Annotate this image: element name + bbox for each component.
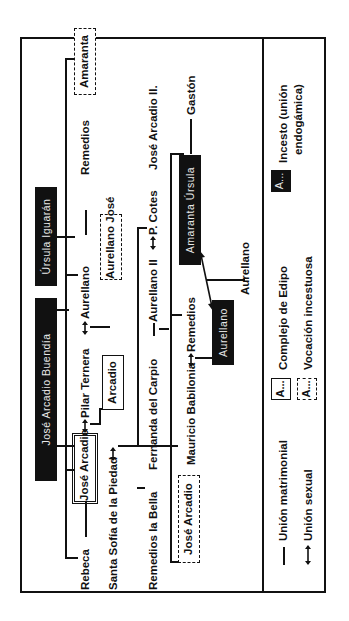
node-jose-arcadio-buendia: José Arcadio Buendía <box>35 298 57 481</box>
legend-vocation-box-icon: A... <box>297 378 317 400</box>
line-to-aureliano-box <box>195 357 212 359</box>
node-ursula-iguaran: Úrsula Iguarán <box>35 187 57 286</box>
incest-union-arrow <box>198 251 216 311</box>
node-amaranta: Amaranta <box>74 28 96 95</box>
node-p-cotes: P. Cotes <box>146 190 160 235</box>
legend-incest-label-line1: Incesto (unión <box>276 84 290 163</box>
node-gaston: Gastón <box>184 75 198 115</box>
node-mauricio-babilonia: Mauricio Babilonia <box>184 363 198 465</box>
node-amaranta-ursula: Amaranta Úrsula <box>179 155 201 265</box>
line-aureliano-remedios <box>85 210 87 235</box>
node-jose-arcadio-ii: José Arcadio II. <box>146 85 160 170</box>
node-aureliano-child: Aurellano <box>238 242 252 295</box>
legend-marriage-label: Unión matrimonial <box>276 440 290 541</box>
line-gen4-bus <box>170 153 172 563</box>
node-pilar-ternera: Pilar Ternera <box>78 349 92 418</box>
legend-sexual-label: Unión sexual <box>301 469 315 541</box>
line-rebeca-marriage <box>85 502 87 537</box>
line-to-arcadio <box>99 410 101 425</box>
node-aureliano-gen1: Aurellano <box>78 266 92 319</box>
legend-incest-box-icon: A... <box>271 170 291 192</box>
sexual-union-arrow <box>186 353 196 367</box>
node-remedios-gen1: Remedios <box>78 120 92 175</box>
legend-sexual-arrow-icon <box>303 545 313 565</box>
sexual-union-arrow <box>148 236 158 250</box>
legend-oedipus-label: Complejo de Edipo <box>276 266 290 370</box>
line-fernanda-aureliano-ii <box>153 323 155 336</box>
node-remedios-la-bella: Remedios la Bella <box>146 492 160 590</box>
node-rebeca: Rebeca <box>78 549 92 590</box>
line-marriage-stem <box>57 309 69 311</box>
legend-vocation-label: Vocación incestuosa <box>301 256 315 370</box>
sexual-union-arrow <box>80 321 90 335</box>
line-gen3-bus <box>137 229 139 447</box>
line-amaranta-gaston <box>190 119 192 154</box>
node-aureliano-ii: Aurellano II <box>146 259 160 322</box>
line-to-aureliano <box>65 274 78 276</box>
node-aureliano-jose: Aurellano José <box>100 214 122 280</box>
sexual-union-arrow <box>108 447 118 461</box>
legend-divider <box>262 37 264 593</box>
legend-incest-label-line2: endogámica) <box>291 84 305 155</box>
node-fernanda-del-carpio: Fernanda del Carpio <box>146 359 160 470</box>
node-remedios-gen4: Remedios <box>184 297 198 352</box>
line-to-remedios-gen4 <box>170 314 182 316</box>
legend-marriage-line-icon <box>283 547 285 565</box>
line-to-rebeca <box>65 557 78 559</box>
sexual-union-arrow <box>80 419 90 433</box>
node-jose-arcadio-gen4: José Arcadio <box>178 475 200 563</box>
line-to-aureliano-jose <box>90 326 110 328</box>
node-arcadio: Arcadio <box>102 355 124 410</box>
legend-oedipus-box-icon: A... <box>271 378 291 400</box>
node-santa-sofia: Santa Sofía de la Piedad <box>106 457 120 590</box>
line-fernanda-children <box>159 328 169 330</box>
node-jose-arcadio-gen1: José Arcadio <box>74 435 96 502</box>
line-gen1-bus <box>65 59 67 559</box>
line-to-remedios-la-bella <box>137 487 145 489</box>
genealogy-diagram: José Arcadio Buendía Úrsula Iguarán Rebe… <box>0 0 349 621</box>
